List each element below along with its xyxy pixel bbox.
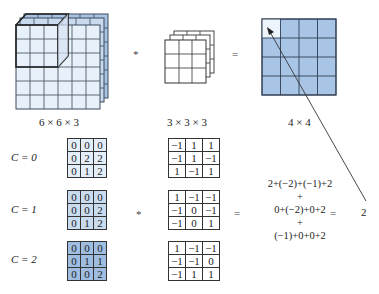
sum-expression: 2+(−2)+(−1)+2 + 0+(−2)+0+2 + (−1)+0+0+2 (245, 177, 355, 242)
sum-plus-2: + (245, 216, 355, 229)
channel-label-0: C = 0 (11, 151, 37, 163)
sum-plus-1: + (245, 190, 355, 203)
equals-operator-top: = (232, 48, 238, 60)
kernel-c0: −111 −11−1 1−11 (168, 138, 220, 178)
channel-label-1: C = 1 (11, 203, 37, 215)
kernel-c2: 1−1−1 −1−10 −111 (168, 241, 220, 281)
kernel-dim-label: 3 × 3 × 3 (167, 116, 207, 128)
input-patch-c0: 000 022 012 (67, 138, 107, 178)
conv-operator-top: * (133, 48, 139, 60)
equals-operator-bottom-1: = (234, 207, 240, 219)
sum-line-2: 0+(−2)+0+2 (245, 203, 355, 216)
input-patch-c2: 000 011 002 (67, 241, 107, 281)
result-value: 2 (361, 206, 367, 218)
channel-label-2: C = 2 (11, 253, 37, 265)
sum-line-3: (−1)+0+0+2 (245, 229, 355, 242)
output-dim-label: 4 × 4 (288, 116, 311, 128)
kernel-c1: 1−1−1 −10−1 −101 (168, 190, 220, 230)
input-dim-label: 6 × 6 × 3 (39, 116, 79, 128)
sum-line-1: 2+(−2)+(−1)+2 (245, 177, 355, 190)
kernel-stack (165, 31, 214, 83)
conv-operator-bottom: * (136, 208, 142, 220)
input-patch-c1: 000 002 012 (67, 190, 107, 230)
